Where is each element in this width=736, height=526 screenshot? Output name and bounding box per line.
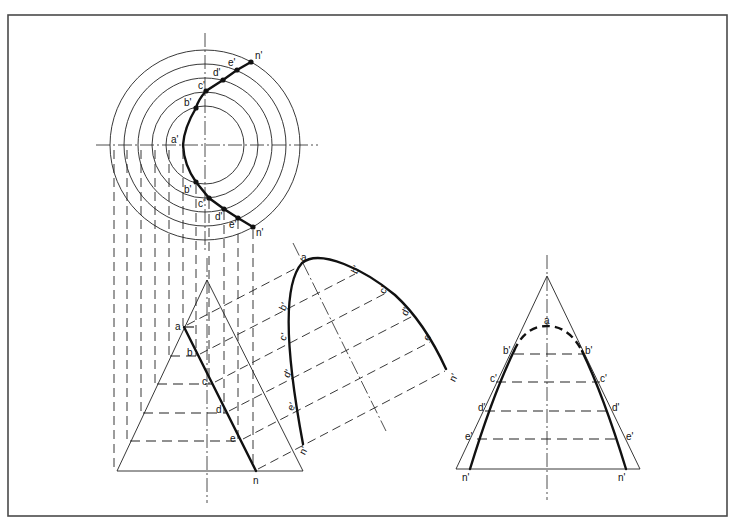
- side-hyperbola-left: [470, 351, 514, 469]
- svg-text:n': n': [447, 372, 460, 384]
- side-hidden-apex-curve: [514, 326, 582, 351]
- vertical-projectors: [114, 150, 253, 468]
- true-shape-hyperbola: [289, 258, 446, 444]
- svg-text:b': b': [184, 97, 192, 108]
- svg-text:b': b': [585, 345, 593, 356]
- svg-text:d': d': [213, 67, 221, 78]
- svg-text:d: d: [216, 404, 222, 415]
- svg-text:e': e': [626, 431, 634, 442]
- plan-labels: a' b' c' d' e' n' b' c' d' e' n': [171, 50, 264, 238]
- svg-text:a: a: [544, 315, 550, 326]
- svg-text:n': n': [618, 472, 626, 483]
- conic-section-drawing: a' b' c' d' e' n' b' c' d' e' n': [0, 0, 736, 526]
- plan-section-curve: [183, 62, 253, 227]
- svg-text:c': c': [198, 198, 205, 209]
- true-shape-view: a b' c' d' e' n' b' c' d' e' n': [187, 243, 460, 469]
- svg-text:n': n': [462, 472, 470, 483]
- svg-text:e': e': [465, 431, 473, 442]
- svg-text:b: b: [187, 347, 193, 358]
- svg-text:n': n': [297, 445, 310, 457]
- svg-text:b': b': [503, 345, 511, 356]
- svg-text:n': n': [255, 50, 263, 61]
- drawing-frame: [8, 15, 727, 516]
- svg-text:d': d': [478, 402, 486, 413]
- svg-text:b': b': [349, 264, 362, 276]
- svg-text:e: e: [230, 433, 236, 444]
- svg-text:d': d': [612, 402, 620, 413]
- svg-text:a: a: [301, 252, 307, 263]
- front-view: a b c d e n: [117, 258, 303, 503]
- svg-text:e': e': [228, 57, 236, 68]
- svg-text:c': c': [490, 373, 497, 384]
- svg-text:n: n: [253, 475, 259, 486]
- cutting-plane-line: [184, 327, 256, 471]
- svg-text:d': d': [399, 306, 412, 318]
- svg-text:b': b': [184, 184, 192, 195]
- side-labels: a b' c' d' e' n' b' c' d' e' n': [462, 315, 634, 483]
- svg-text:e': e': [229, 219, 237, 230]
- svg-text:d': d': [215, 211, 223, 222]
- plan-view: a' b' c' d' e' n' b' c' d' e' n': [96, 33, 318, 252]
- true-shape-labels: a b' c' d' e' n' b' c' d' e' n': [277, 252, 460, 456]
- svg-text:a: a: [175, 321, 181, 332]
- svg-text:a': a': [171, 134, 179, 145]
- side-view: a b' c' d' e' n' b' c' d' e' n': [456, 255, 640, 500]
- svg-text:c': c': [600, 373, 607, 384]
- svg-text:n': n': [256, 227, 264, 238]
- svg-text:c: c: [202, 376, 207, 387]
- svg-text:c': c': [198, 80, 205, 91]
